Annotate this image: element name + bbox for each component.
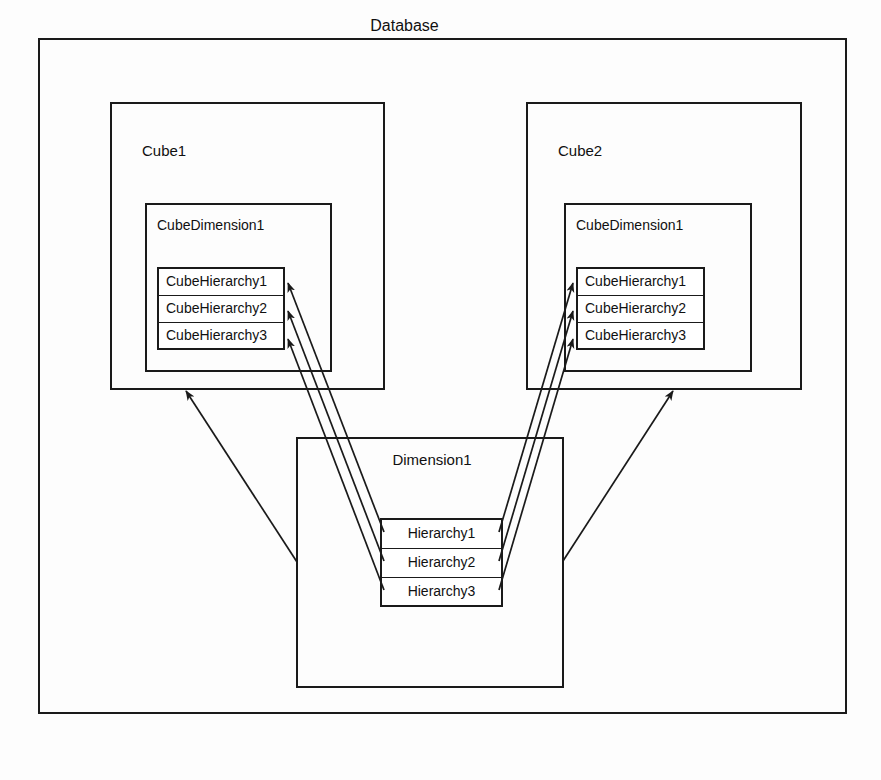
page-bottom-edge [0, 770, 881, 780]
cube1-hierarchy-row: CubeHierarchy2 [159, 296, 283, 323]
dimension1-hierarchy-row: Hierarchy1 [382, 520, 501, 549]
dimension1-hierarchy-row: Hierarchy2 [382, 549, 501, 578]
cube1-label: Cube1 [142, 142, 186, 160]
dimension1-hierarchy-row: Hierarchy3 [382, 578, 501, 607]
cube1-hierarchy-row: CubeHierarchy3 [159, 323, 283, 350]
cube1-hierarchy-stack: CubeHierarchy1 CubeHierarchy2 CubeHierar… [157, 267, 285, 350]
cube1-hierarchy-row: CubeHierarchy1 [159, 269, 283, 296]
cube2-label: Cube2 [558, 142, 602, 160]
cube2-cubedimension-label: CubeDimension1 [576, 216, 683, 234]
dimension1-hierarchy-stack: Hierarchy1 Hierarchy2 Hierarchy3 [380, 518, 503, 607]
database-label: Database [0, 17, 809, 35]
cube1-cubedimension-label: CubeDimension1 [157, 216, 264, 234]
cube2-hierarchy-row: CubeHierarchy2 [578, 296, 703, 323]
cube2-hierarchy-stack: CubeHierarchy1 CubeHierarchy2 CubeHierar… [576, 267, 705, 350]
dimension1-label: Dimension1 [298, 451, 566, 469]
cube2-hierarchy-row: CubeHierarchy3 [578, 323, 703, 350]
diagram-canvas: Database Cube1 CubeDimension1 CubeHierar… [0, 0, 881, 780]
cube2-hierarchy-row: CubeHierarchy1 [578, 269, 703, 296]
